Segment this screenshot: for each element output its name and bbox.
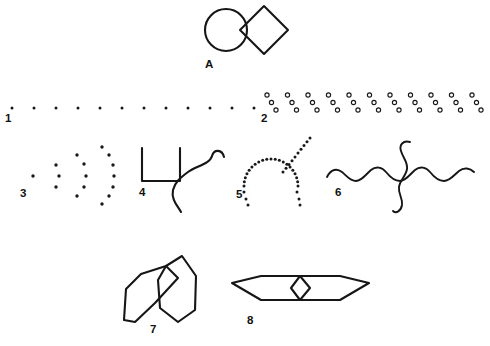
arch-dot [278, 159, 281, 162]
dotted-arch [243, 158, 302, 207]
row-dot [165, 107, 168, 110]
branch-dot [309, 137, 312, 140]
figure-7-group: 7 [124, 256, 196, 335]
arch-dot [248, 169, 251, 172]
left-polygon [124, 266, 178, 322]
row-dot [187, 107, 190, 110]
figure-1-group: 1 [5, 107, 256, 125]
ring-dot [397, 108, 401, 112]
ring-dot [315, 108, 319, 112]
ring-dot [294, 108, 298, 112]
ring-dot [438, 108, 442, 112]
arch-dot [294, 172, 297, 175]
ring-dot [372, 100, 376, 104]
ring-dot [479, 108, 483, 112]
ring-dot [433, 100, 437, 104]
ring-dot [335, 108, 339, 112]
row-dot [55, 107, 58, 110]
figure-label-8: 8 [247, 314, 254, 326]
figure-4-group: 4 [139, 148, 224, 212]
arch-dot [243, 191, 246, 194]
figure-2-group: 2 [261, 93, 483, 124]
figure-label-7: 7 [150, 323, 156, 335]
arch-dot [245, 198, 248, 201]
arch-dot [297, 185, 300, 188]
ring-dot [388, 93, 392, 97]
arch-dot [291, 169, 294, 172]
ring-dot [413, 100, 417, 104]
figure-label-5: 5 [236, 188, 243, 200]
branch-dot [303, 144, 306, 147]
figure-plate: A 1 2 [0, 0, 490, 346]
ring-dot [429, 93, 433, 97]
branch-dot [285, 167, 288, 170]
ring-dot [310, 100, 314, 104]
dotted-arc-1 [31, 174, 34, 177]
ring-dot [449, 93, 453, 97]
ring-dot [331, 100, 335, 104]
arch-dot [295, 176, 298, 179]
ring-dot [417, 108, 421, 112]
arch-dot [296, 191, 299, 194]
ring-dot [290, 100, 294, 104]
row-dot [11, 107, 14, 110]
figure-a-group: A [205, 6, 288, 70]
arch-dot [261, 159, 264, 162]
arch-dot [247, 204, 250, 207]
single-dot-row [11, 107, 256, 110]
figure-8-group: 8 [232, 276, 369, 326]
dotted-arc-3 [75, 153, 87, 197]
figure-plate-canvas: A 1 2 [0, 0, 490, 346]
figure-label-2: 2 [261, 112, 267, 124]
row-dot [121, 107, 124, 110]
ring-dot [408, 93, 412, 97]
horizontal-wave [327, 168, 474, 181]
ring-dot [265, 93, 269, 97]
arch-dot [274, 158, 277, 161]
arch-dot [250, 165, 253, 168]
arch-dot [265, 158, 268, 161]
branch-dot [306, 140, 309, 143]
row-dot [231, 107, 234, 110]
ring-dot [347, 93, 351, 97]
branch-dot [282, 171, 285, 174]
row-dot [253, 107, 256, 110]
row-dot [143, 107, 146, 110]
branch-dot [288, 163, 291, 166]
arch-dot [298, 198, 301, 201]
ring-dot [351, 100, 355, 104]
arch-dot [243, 180, 246, 183]
ring-dot [454, 100, 458, 104]
branch-dot [291, 159, 294, 162]
branch-dot [294, 155, 297, 158]
ring-dot [274, 108, 278, 112]
row-dot [99, 107, 102, 110]
arch-dot [243, 185, 246, 188]
ring-dot [306, 93, 310, 97]
inner-diamond [291, 276, 310, 300]
ring-dot [326, 93, 330, 97]
figure-label-4: 4 [139, 186, 146, 198]
branch-dot [300, 148, 303, 151]
arch-dot [296, 180, 299, 183]
arch-dot [245, 172, 248, 175]
figure-5-group: 5 [236, 137, 312, 207]
dotted-arc-4 [100, 145, 115, 205]
ring-dot [356, 108, 360, 112]
arch-dot [299, 204, 302, 207]
ring-dot [458, 108, 462, 112]
figure-3-group: 3 [20, 145, 116, 205]
ring-triplet-row [265, 93, 483, 112]
ring-dot [392, 100, 396, 104]
figure-6-group: 6 [327, 142, 474, 213]
ring-dot [376, 108, 380, 112]
dotted-diagonal-branch [282, 137, 312, 174]
arch-dot [257, 160, 260, 163]
ring-dot [285, 93, 289, 97]
arch-dot [270, 158, 273, 161]
u-bracket-shape [142, 148, 180, 181]
row-dot [33, 107, 36, 110]
arch-dot [282, 160, 285, 163]
dotted-arc-2 [54, 163, 60, 188]
ring-dot [470, 93, 474, 97]
